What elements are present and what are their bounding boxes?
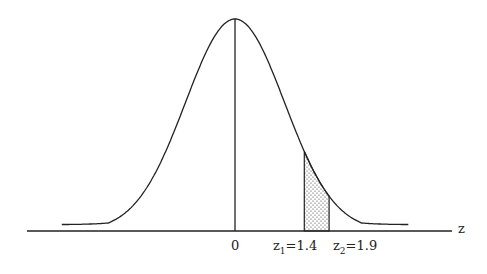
z1-label: z1=1.4 <box>273 238 317 256</box>
normal-distribution-chart: z 0 z1=1.4 z2=1.9 <box>0 0 487 274</box>
axis-label-z: z <box>458 221 465 236</box>
chart-canvas: z 0 z1=1.4 z2=1.9 <box>0 0 487 274</box>
z2-label: z2=1.9 <box>333 238 377 256</box>
zero-label: 0 <box>231 238 239 253</box>
